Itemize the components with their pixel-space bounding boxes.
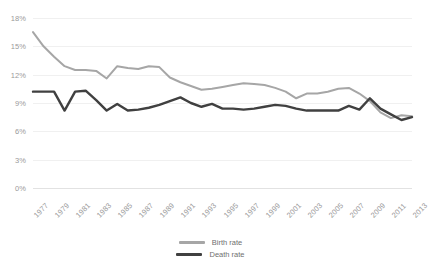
y-tick-label: 0% bbox=[15, 184, 26, 193]
x-tick-label: 2011 bbox=[390, 202, 408, 220]
x-tick-label: 1987 bbox=[137, 201, 155, 219]
x-tick-label: 2005 bbox=[327, 201, 345, 219]
chart-legend: Birth rateDeath rate bbox=[0, 238, 421, 259]
y-tick-label: 6% bbox=[15, 127, 26, 136]
x-tick-label: 1985 bbox=[116, 201, 134, 219]
x-tick-label: 1999 bbox=[263, 201, 281, 219]
x-tick-label: 1995 bbox=[221, 201, 239, 219]
x-tick-label: 2003 bbox=[306, 201, 324, 219]
x-tick-label: 2009 bbox=[369, 201, 387, 219]
series-line-death-rate bbox=[33, 91, 412, 120]
x-tick-label: 1989 bbox=[158, 201, 176, 219]
y-tick-label: 12% bbox=[11, 70, 26, 79]
x-tick-label: 2007 bbox=[348, 201, 366, 219]
y-tick-label: 15% bbox=[11, 42, 26, 51]
plot-area bbox=[33, 18, 412, 188]
legend-swatch-icon bbox=[179, 241, 205, 244]
x-tick-label: 2001 bbox=[284, 201, 302, 219]
x-tick-label: 1981 bbox=[74, 201, 92, 219]
x-tick-label: 1983 bbox=[95, 201, 113, 219]
series-container bbox=[33, 18, 412, 188]
x-tick-label: 2013 bbox=[411, 201, 429, 219]
y-tick-label: 9% bbox=[15, 99, 26, 108]
x-tick-label: 1979 bbox=[53, 201, 71, 219]
legend-swatch-icon bbox=[176, 253, 202, 256]
legend-label: Death rate bbox=[209, 250, 244, 259]
x-axis: 1977197919811983198519871989199119931995… bbox=[33, 188, 412, 234]
x-tick-label: 1991 bbox=[179, 201, 197, 219]
legend-item-birth-rate[interactable]: Birth rate bbox=[179, 238, 242, 247]
legend-label: Birth rate bbox=[212, 238, 242, 247]
x-tick-label: 1977 bbox=[32, 201, 50, 219]
series-line-birth-rate bbox=[33, 32, 412, 118]
x-tick-label: 1993 bbox=[200, 201, 218, 219]
legend-item-death-rate[interactable]: Death rate bbox=[176, 250, 244, 259]
y-tick-label: 18% bbox=[11, 14, 26, 23]
y-axis: 18%15%12%9%6%3%0% bbox=[0, 18, 30, 188]
x-tick-label: 1997 bbox=[242, 201, 260, 219]
y-tick-label: 3% bbox=[15, 155, 26, 164]
